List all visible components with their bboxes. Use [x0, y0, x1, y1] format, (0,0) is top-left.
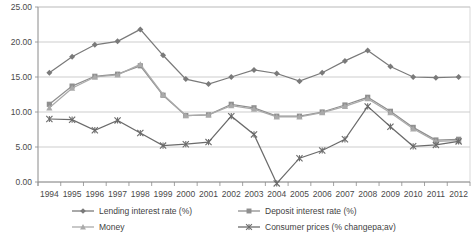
series-3 — [46, 103, 461, 186]
y-tick-label: 25.00 — [11, 2, 33, 12]
chart-canvas: 0.005.0010.0015.0020.0025.00 19941995199… — [0, 0, 473, 239]
legend-label: Consumer prices (% changepa;av) — [265, 222, 396, 232]
y-tick-label: 20.00 — [11, 37, 33, 47]
data-point-marker — [206, 81, 212, 87]
x-tick-label: 2004 — [267, 189, 286, 199]
y-axis-tick-labels: 0.005.0010.0015.0020.0025.00 — [11, 2, 33, 187]
legend-item-3[interactable]: Consumer prices (% changepa;av) — [238, 222, 396, 232]
x-axis-tick-labels: 1994199519961997199819992000200120022003… — [40, 189, 468, 199]
data-point-marker — [251, 67, 257, 73]
data-point-marker — [228, 113, 234, 119]
x-tick-label: 1997 — [108, 189, 127, 199]
x-tick-label: 2012 — [449, 189, 468, 199]
x-tick-label: 2002 — [222, 189, 241, 199]
data-point-marker — [251, 131, 257, 137]
y-tick-label: 15.00 — [11, 72, 33, 82]
legend-item-2[interactable]: Money — [72, 222, 125, 232]
legend-marker-icon — [247, 209, 252, 214]
y-tick-label: 10.00 — [11, 107, 33, 117]
data-point-marker — [274, 180, 280, 186]
gridlines — [38, 7, 470, 182]
y-tick-label: 5.00 — [15, 142, 32, 152]
legend-item-0[interactable]: Lending interest rate (%) — [72, 206, 192, 216]
data-point-marker — [137, 130, 143, 136]
data-point-marker — [319, 70, 325, 76]
data-point-marker — [92, 127, 98, 133]
plot-area-border — [38, 7, 470, 182]
x-tick-label: 2010 — [404, 189, 423, 199]
data-point-marker — [456, 74, 462, 80]
legend-label: Lending interest rate (%) — [99, 206, 192, 216]
data-series — [46, 26, 461, 186]
axes — [35, 7, 470, 186]
data-point-marker — [274, 71, 280, 77]
data-point-marker — [342, 136, 348, 142]
x-tick-label: 2011 — [427, 189, 446, 199]
data-point-marker — [296, 155, 302, 161]
x-tick-label: 2005 — [290, 189, 309, 199]
x-tick-label: 1999 — [154, 189, 173, 199]
data-point-marker — [115, 38, 121, 44]
data-point-marker — [342, 58, 348, 64]
x-tick-label: 2007 — [335, 189, 354, 199]
data-point-marker — [410, 74, 416, 80]
series-line — [49, 64, 458, 141]
data-point-marker — [92, 42, 98, 48]
data-point-marker — [319, 147, 325, 153]
x-tick-label: 1994 — [40, 189, 59, 199]
x-tick-label: 1998 — [131, 189, 150, 199]
data-point-marker — [228, 74, 234, 80]
x-tick-label: 2003 — [245, 189, 264, 199]
data-point-marker — [387, 124, 393, 130]
line-chart: 0.005.0010.0015.0020.0025.00 19941995199… — [0, 0, 473, 239]
data-point-marker — [114, 117, 120, 123]
legend-marker-icon — [80, 208, 86, 214]
series-0 — [46, 26, 461, 87]
legend-item-1[interactable]: Deposit interest rate (%) — [238, 206, 357, 216]
x-tick-label: 2001 — [199, 189, 218, 199]
x-tick-label: 2009 — [381, 189, 400, 199]
y-tick-label: 0.00 — [15, 177, 32, 187]
legend-label: Money — [99, 222, 125, 232]
x-tick-label: 2000 — [176, 189, 195, 199]
data-point-marker — [296, 78, 302, 84]
data-point-marker — [433, 75, 439, 81]
x-tick-label: 1996 — [85, 189, 104, 199]
x-tick-label: 1995 — [63, 189, 82, 199]
x-tick-label: 2006 — [313, 189, 332, 199]
legend-label: Deposit interest rate (%) — [265, 206, 357, 216]
data-point-marker — [365, 103, 371, 109]
chart-legend: Lending interest rate (%)Deposit interes… — [72, 206, 396, 232]
x-tick-label: 2008 — [358, 189, 377, 199]
